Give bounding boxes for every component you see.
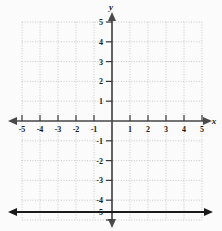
y-tick-label: 1 [99, 97, 103, 106]
x-tick-label: 2 [146, 125, 150, 134]
x-axis-name-label: x [211, 116, 217, 126]
x-tick-label: -5 [19, 125, 26, 134]
y-tick-label: 5 [99, 18, 103, 27]
x-tick-label: -3 [55, 125, 62, 134]
x-tick-label: -4 [37, 125, 44, 134]
y-tick-label: -3 [96, 176, 103, 185]
x-tick-label: 1 [128, 125, 132, 134]
y-tick-label: -1 [96, 137, 103, 146]
y-tick-label: 2 [99, 77, 103, 86]
x-tick-label: 3 [164, 125, 168, 134]
y-tick-label: -4 [96, 196, 103, 205]
graph-svg: -5 -4 -3 -2 -1 1 2 3 4 5 5 4 3 2 1 -1 -2… [0, 0, 222, 231]
x-tick-label: 4 [182, 125, 186, 134]
x-tick-label: -2 [73, 125, 80, 134]
y-tick-label: -2 [96, 157, 103, 166]
y-tick-label: 3 [99, 58, 103, 67]
x-tick-label: -1 [91, 125, 98, 134]
y-tick-label: 4 [99, 38, 103, 47]
x-tick-label: 5 [200, 125, 204, 134]
coordinate-plane-graph: -5 -4 -3 -2 -1 1 2 3 4 5 5 4 3 2 1 -1 -2… [0, 0, 222, 231]
graph-background [0, 0, 222, 231]
